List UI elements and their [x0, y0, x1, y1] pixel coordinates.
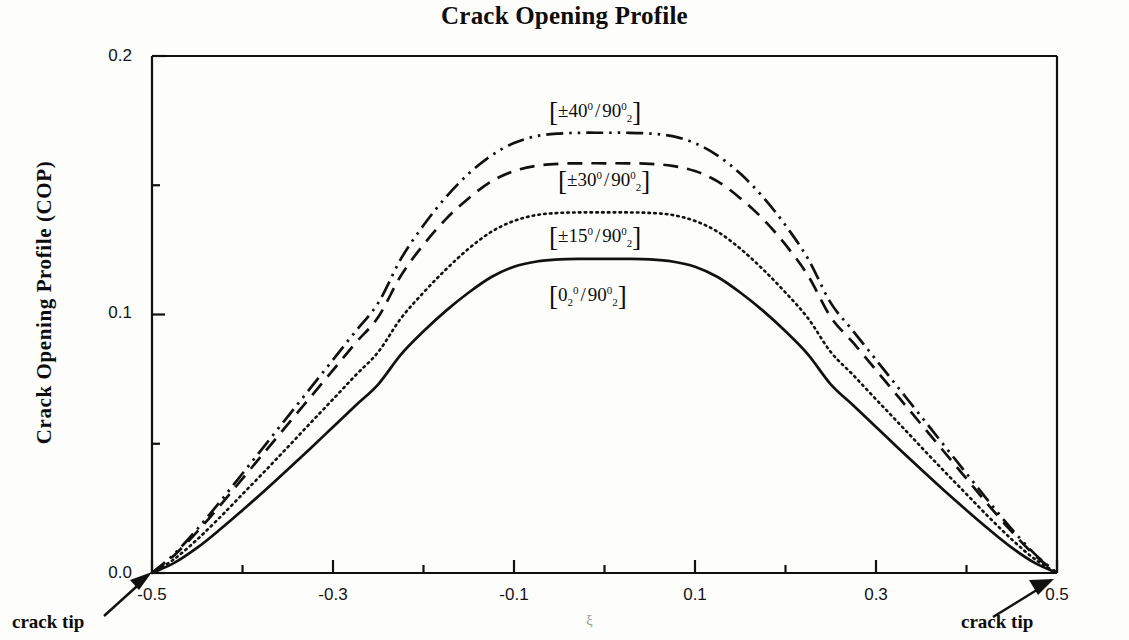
y-axis-ticks [152, 56, 165, 573]
legend-label-15: [±150/9002] [549, 222, 641, 253]
axis-frame [152, 56, 1057, 573]
y-tick-label-2: 0.0 [88, 563, 132, 583]
y-tick-label-1: 0.1 [88, 303, 132, 323]
data-curves [152, 133, 1057, 573]
legend-label-30: [±300/9002] [558, 166, 650, 197]
curve-0 [152, 133, 1057, 573]
x-tick-label-2: -0.1 [479, 585, 549, 605]
y-tick-label-0: 0.2 [88, 46, 132, 66]
x-tick-label-0: -0.5 [117, 585, 187, 605]
left-crack-tip-label: crack tip [12, 611, 84, 633]
curve-2 [152, 212, 1057, 573]
crack-opening-profile-figure: Crack Opening Profile Crack Opening Prof… [0, 0, 1129, 640]
x-tick-label-1: -0.3 [298, 585, 368, 605]
x-tick-label-5: 0.5 [1022, 585, 1092, 605]
x-axis-ticks [152, 560, 1057, 573]
right-crack-tip-label: crack tip [961, 611, 1033, 633]
x-tick-label-4: 0.3 [841, 585, 911, 605]
x-tick-label-3: 0.1 [660, 585, 730, 605]
legend-label-00: [020/9002] [549, 281, 627, 312]
legend-label-40: [±400/9002] [549, 97, 641, 128]
plot-area [0, 0, 1129, 640]
